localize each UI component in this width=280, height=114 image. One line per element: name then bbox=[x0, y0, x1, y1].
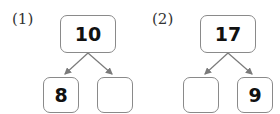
problem-2-right-part-box: 9 bbox=[237, 77, 273, 113]
arrow-group-1 bbox=[65, 53, 112, 74]
problem-1-whole-box: 10 bbox=[60, 15, 116, 53]
problem-2-label: (2) bbox=[152, 10, 173, 28]
problem-1-left-part-box: 8 bbox=[43, 77, 79, 113]
problem-1-label: (1) bbox=[12, 10, 33, 28]
problem-2-whole-box: 17 bbox=[200, 15, 256, 53]
problem-2-left-part-box[interactable] bbox=[183, 77, 219, 113]
arrow-group-2 bbox=[205, 53, 252, 74]
problem-1-right-part-box[interactable] bbox=[97, 77, 133, 113]
